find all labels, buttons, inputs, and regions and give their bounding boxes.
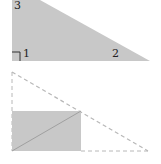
angle-label-2: 2 (112, 47, 119, 60)
angle-label-3: 3 (14, 0, 21, 12)
shaded-right-triangle (12, 0, 150, 61)
angle-label-1: 1 (23, 47, 30, 60)
geometry-diagram: 3 1 2 (0, 0, 161, 164)
